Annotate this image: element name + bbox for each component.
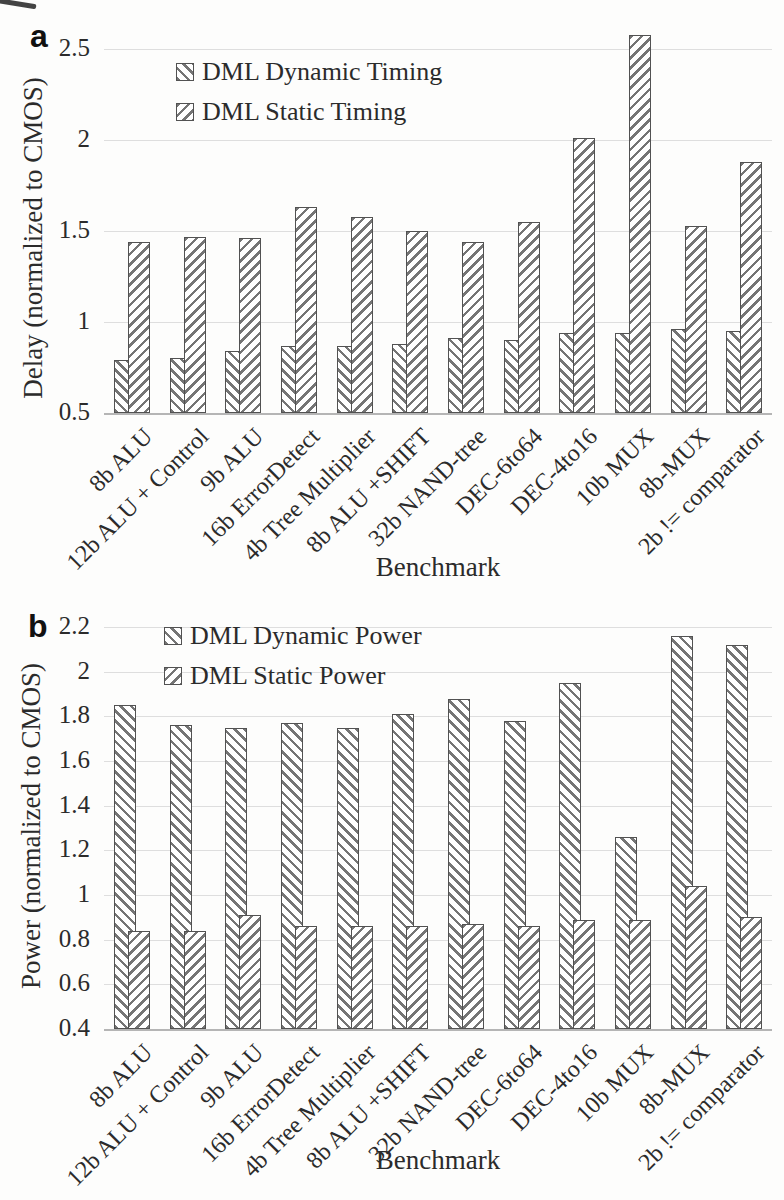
y-tick-label: 2 [78, 125, 91, 153]
delay-x-axis-title: Benchmark [376, 552, 500, 583]
bar-static [629, 920, 651, 1029]
legend-item-dml-static-power: DML Static Power [164, 656, 422, 696]
legend-label: DML Static Timing [202, 97, 406, 127]
y-tick-label: 0.5 [59, 398, 90, 426]
legend-label: DML Dynamic Power [190, 621, 422, 651]
bar-static [128, 931, 150, 1029]
backslash-hatch-swatch-icon [164, 627, 182, 645]
gridline [104, 231, 772, 232]
y-tick-label: 1.2 [59, 835, 90, 863]
legend-item-dml-static-timing: DML Static Timing [176, 92, 442, 132]
bar-static [629, 35, 651, 413]
bar-static [518, 222, 540, 413]
y-tick-label: 0.4 [59, 1014, 90, 1042]
bar-static [351, 926, 373, 1029]
bar-static [462, 924, 484, 1029]
y-tick-label: 2.5 [59, 34, 90, 62]
bar-static [685, 226, 707, 413]
y-tick-label: 2 [78, 657, 91, 685]
bar-static [128, 242, 150, 413]
figure: a Delay (normalized to CMOS) 0.511.522.5… [0, 0, 784, 1200]
bar-static [462, 242, 484, 413]
y-tick-label: 2.2 [59, 612, 90, 640]
y-tick-label: 0.8 [59, 925, 90, 953]
power-chart-panel: b Power (normalized to CMOS) 0.40.60.811… [0, 600, 784, 1200]
legend-label: DML Static Power [190, 661, 385, 691]
gridline [104, 140, 772, 141]
legend-label: DML Dynamic Timing [202, 57, 442, 87]
slash-hatch-swatch-icon [176, 103, 194, 121]
bar-static [573, 920, 595, 1029]
bar-static [295, 926, 317, 1029]
bar-static [518, 926, 540, 1029]
y-tick-label: 1 [78, 880, 91, 908]
bar-static [295, 207, 317, 413]
delay-chart-panel: a Delay (normalized to CMOS) 0.511.522.5… [0, 0, 784, 600]
legend-item-dml-dynamic-power: DML Dynamic Power [164, 616, 422, 656]
x-axis-line [104, 413, 772, 415]
bar-static [685, 886, 707, 1029]
slash-hatch-swatch-icon [164, 667, 182, 685]
bar-static [740, 162, 762, 413]
y-tick-label: 1.6 [59, 746, 90, 774]
bar-static [184, 237, 206, 413]
y-tick-label: 0.6 [59, 969, 90, 997]
bar-static [239, 238, 261, 413]
bar-static [239, 915, 261, 1029]
bar-static [184, 931, 206, 1029]
gridline [104, 49, 772, 50]
backslash-hatch-swatch-icon [176, 63, 194, 81]
bar-static [406, 231, 428, 413]
x-axis-line [104, 1029, 772, 1031]
delay-legend: DML Dynamic Timing DML Static Timing [176, 52, 442, 132]
y-tick-label: 1.8 [59, 701, 90, 729]
power-x-axis-title: Benchmark [376, 1145, 500, 1176]
y-tick-label: 1 [78, 307, 91, 335]
y-tick-label: 1.4 [59, 791, 90, 819]
bar-static [406, 926, 428, 1029]
legend-item-dml-dynamic-timing: DML Dynamic Timing [176, 52, 442, 92]
power-legend: DML Dynamic Power DML Static Power [164, 616, 422, 696]
y-tick-label: 1.5 [59, 216, 90, 244]
bar-static [351, 217, 373, 414]
bar-static [573, 138, 595, 413]
bar-static [740, 917, 762, 1029]
